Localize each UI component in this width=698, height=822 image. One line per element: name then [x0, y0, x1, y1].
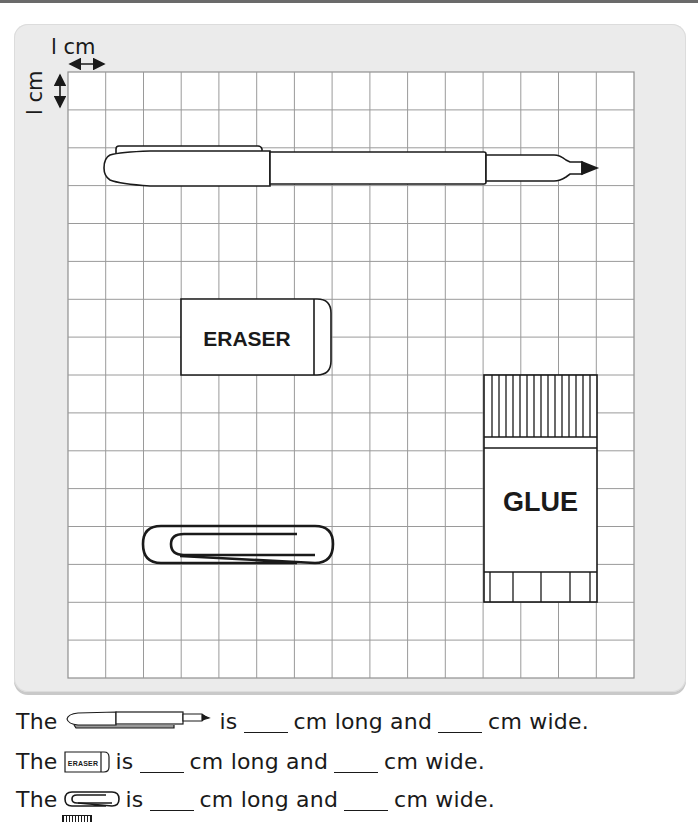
measurement-grid-drawing: ERASER	[0, 0, 698, 700]
answer-blank-length-paperclip[interactable]	[150, 790, 194, 811]
paperclip-icon	[64, 785, 120, 815]
question-unit-long: cm long and	[190, 747, 329, 777]
question-is: is	[116, 747, 134, 777]
question-paperclip: The is cm long and cm wide.	[16, 785, 495, 815]
answer-blank-length-pen[interactable]	[244, 712, 288, 733]
question-eraser: The ERASER is cm long and cm wide.	[16, 747, 485, 777]
eraser-label: ERASER	[203, 327, 291, 350]
answer-blank-length-eraser[interactable]	[140, 752, 184, 773]
eraser-object: ERASER	[181, 299, 331, 375]
pen-icon	[64, 707, 214, 737]
question-is: is	[126, 785, 144, 815]
answer-blank-width-pen[interactable]	[438, 712, 482, 733]
glue-object: GLUE	[484, 375, 597, 602]
glue-icon-partial	[62, 815, 92, 822]
question-prefix: The	[16, 747, 58, 777]
answer-blank-width-paperclip[interactable]	[344, 790, 388, 811]
question-unit-long: cm long and	[200, 785, 339, 815]
question-prefix: The	[16, 785, 58, 815]
question-unit-long: cm long and	[294, 707, 433, 737]
question-unit-wide: cm wide.	[384, 747, 485, 777]
question-unit-wide: cm wide.	[394, 785, 495, 815]
eraser-icon: ERASER	[64, 751, 110, 773]
eraser-icon-text: ERASER	[67, 760, 97, 767]
answer-blank-width-eraser[interactable]	[334, 752, 378, 773]
question-prefix: The	[16, 707, 58, 737]
question-pen: The is cm long and cm wide.	[16, 707, 589, 737]
question-unit-wide: cm wide.	[488, 707, 589, 737]
question-is: is	[220, 707, 238, 737]
glue-label: GLUE	[503, 487, 578, 517]
